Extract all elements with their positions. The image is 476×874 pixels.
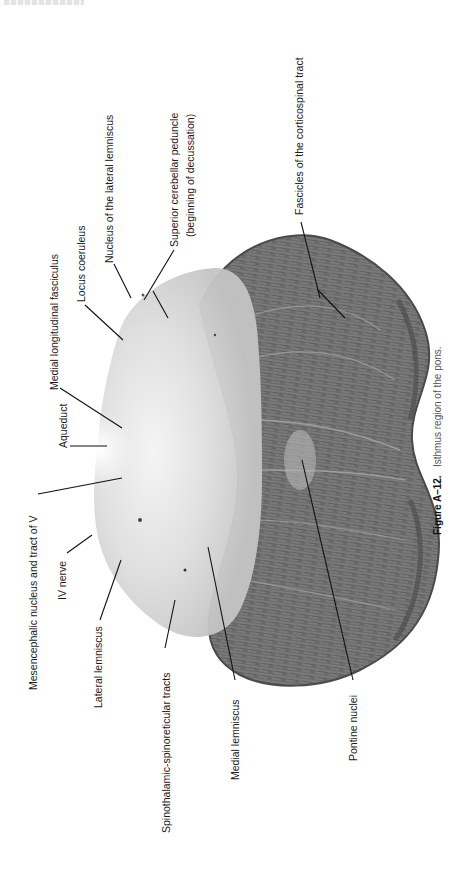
- label-nucleus-lateral-lemniscus: Nucleus of the lateral lemniscus: [103, 115, 115, 263]
- label-pontine-nuclei: Pontine nuclei: [347, 695, 359, 761]
- label-lateral-lemniscus: Lateral lemniscus: [92, 626, 104, 708]
- label-spinothalamic: Spinothalamic-spinoreticular tracts: [160, 673, 172, 833]
- label-mlf: Medial longitudinal fasciculus: [48, 254, 60, 390]
- leader-iv-nerve: [67, 535, 92, 553]
- figure-caption: Figure A–12. Isthmus region of the pons.: [432, 346, 443, 535]
- label-scp-line1: Superior cerebellar peduncle: [168, 113, 180, 247]
- leader-nucleus-lateral-lemniscus: [114, 264, 131, 298]
- label-locus-coeruleus: Locus coeruleus: [75, 226, 87, 302]
- aqueduct-region: [68, 410, 132, 490]
- textbook-page: Mesencephalic nucleus and tract of V IV …: [0, 0, 476, 874]
- figure-caption-text: Isthmus region of the pons.: [432, 346, 443, 467]
- figure-canvas: Mesencephalic nucleus and tract of V IV …: [0, 0, 476, 874]
- label-aqueduct: Aqueduct: [57, 404, 69, 448]
- leader-locus-coeruleus: [85, 305, 123, 340]
- label-mesencephalic: Mesencephalic nucleus and tract of V: [27, 515, 39, 690]
- label-fascicles: Fascicles of the corticospinal tract: [293, 57, 305, 215]
- pons-specimen: [68, 235, 439, 685]
- figure-number: Figure A–12.: [432, 475, 443, 535]
- label-scp-line2: (beginning of decussation): [184, 114, 196, 237]
- label-iv-nerve: IV nerve: [56, 561, 68, 600]
- label-medial-lemniscus: Medial lemniscus: [229, 699, 241, 780]
